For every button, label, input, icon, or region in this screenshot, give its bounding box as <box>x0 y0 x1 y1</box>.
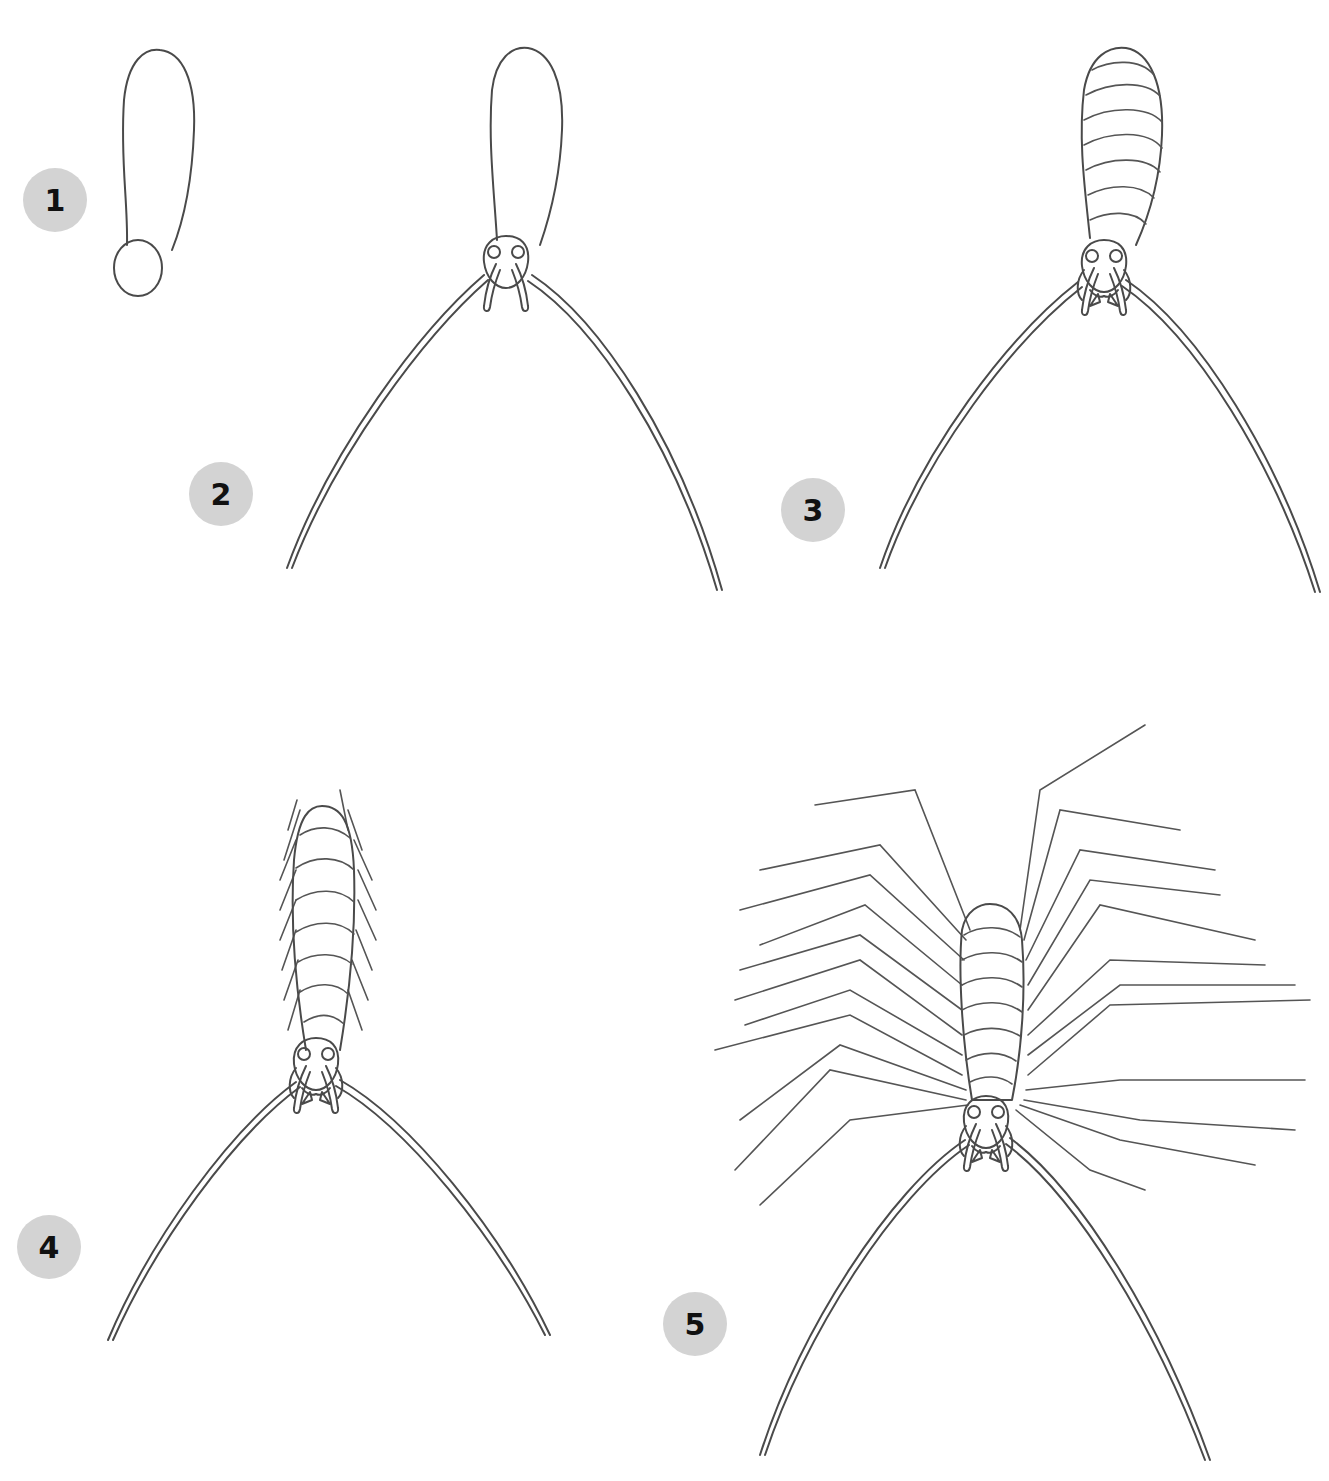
step-number: 4 <box>39 1230 60 1265</box>
step-badge-5: 5 <box>663 1292 727 1356</box>
step-1-drawing <box>114 50 194 296</box>
step-2-drawing <box>287 48 722 590</box>
step-badge-1: 1 <box>23 168 87 232</box>
step-badge-2: 2 <box>189 462 253 526</box>
step-badge-3: 3 <box>781 478 845 542</box>
step-number: 3 <box>803 493 824 528</box>
step-5-drawing <box>715 725 1310 1460</box>
step-number: 2 <box>211 477 232 512</box>
step-number: 5 <box>685 1307 706 1342</box>
drawing-canvas <box>0 0 1329 1481</box>
step-number: 1 <box>45 183 66 218</box>
step-4-drawing <box>108 790 550 1340</box>
step-3-drawing <box>880 48 1320 592</box>
step-badge-4: 4 <box>17 1215 81 1279</box>
